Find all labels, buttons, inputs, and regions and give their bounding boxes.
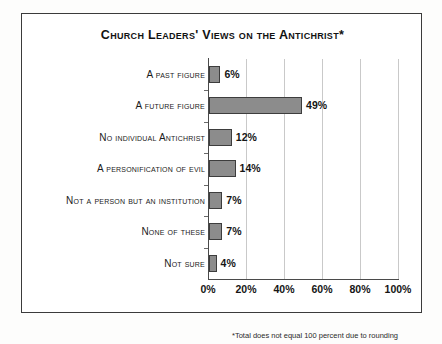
- bar-value-label: 14%: [236, 160, 261, 177]
- bar-value-label: 7%: [222, 223, 241, 240]
- x-axis-line: [208, 279, 399, 280]
- category-label: Not a person but an institution: [25, 185, 205, 216]
- chart-figure: Church Leaders' Views on the Antichrist*…: [0, 0, 442, 344]
- category-label: Not sure: [25, 248, 205, 279]
- x-tick-label-80: 80%: [349, 283, 370, 295]
- bar: [209, 160, 236, 177]
- y-axis-tick: [204, 90, 208, 91]
- x-tick-label-0: 0%: [200, 283, 215, 295]
- chart-frame: Church Leaders' Views on the Antichrist*…: [21, 13, 422, 313]
- category-label: A past figure: [25, 59, 205, 90]
- bar: [209, 97, 302, 114]
- x-tick-label-40: 40%: [273, 283, 294, 295]
- y-axis-tick: [204, 185, 208, 186]
- y-axis-tick: [204, 153, 208, 154]
- bar-row: A future figure49%: [208, 90, 398, 121]
- bar-row: A past figure6%: [208, 59, 398, 90]
- bar-row: Not a person but an institution7%: [208, 185, 398, 216]
- bar-value-label: 12%: [232, 129, 257, 146]
- chart-title: Church Leaders' Views on the Antichrist*: [22, 28, 423, 42]
- bar: [209, 223, 222, 240]
- category-label: None of these: [25, 216, 205, 247]
- bar: [209, 129, 232, 146]
- x-tick-label-100: 100%: [385, 283, 412, 295]
- bar-value-label: 7%: [222, 192, 241, 209]
- gridline-100: [398, 59, 399, 279]
- category-label: A future figure: [25, 90, 205, 121]
- bar-row: A personification of evil14%: [208, 153, 398, 184]
- bar-row: Not sure4%: [208, 248, 398, 279]
- y-axis-tick: [204, 248, 208, 249]
- bar-value-label: 4%: [217, 255, 236, 272]
- bar: [209, 192, 222, 209]
- bar-value-label: 49%: [302, 97, 327, 114]
- x-tick-label-20: 20%: [235, 283, 256, 295]
- bar-value-label: 6%: [220, 66, 239, 83]
- plot-area: A past figure6%A future figure49%No indi…: [208, 59, 398, 279]
- y-axis-tick: [204, 216, 208, 217]
- chart-footnote: *Total does not equal 100 percent due to…: [208, 331, 398, 340]
- bar: [209, 255, 217, 272]
- category-label: A personification of evil: [25, 153, 205, 184]
- bar-row: No individual Antichrist12%: [208, 122, 398, 153]
- category-label: No individual Antichrist: [25, 122, 205, 153]
- bar-row: None of these7%: [208, 216, 398, 247]
- y-axis-tick: [204, 122, 208, 123]
- x-tick-label-60: 60%: [311, 283, 332, 295]
- bar: [209, 66, 220, 83]
